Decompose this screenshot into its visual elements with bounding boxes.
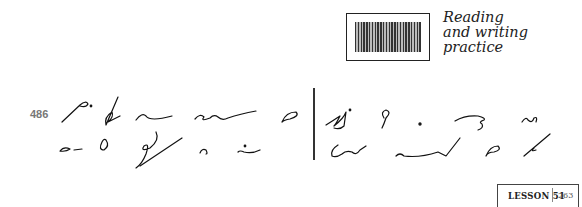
lesson-label: LESSON 51	[508, 191, 565, 201]
shorthand-outlines	[0, 0, 582, 207]
footer-separator	[552, 188, 553, 202]
column-divider	[313, 88, 315, 160]
page-number: 263	[558, 191, 573, 200]
